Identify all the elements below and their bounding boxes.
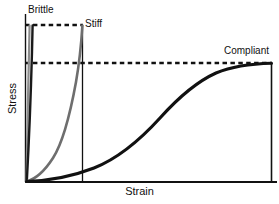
annotation-stiff: Stiff [85, 19, 102, 29]
annotation-brittle: Brittle [28, 5, 54, 15]
annotation-compliant: Compliant [224, 46, 269, 56]
series-compliant-line [27, 63, 272, 181]
y-axis-label: Stress [7, 74, 18, 124]
series-stiff-line [27, 26, 83, 182]
x-axis-label: Strain [0, 186, 279, 197]
stress-strain-chart: Brittle Stiff Compliant Strain Stress [0, 0, 279, 204]
chart-plot-area [0, 0, 279, 204]
